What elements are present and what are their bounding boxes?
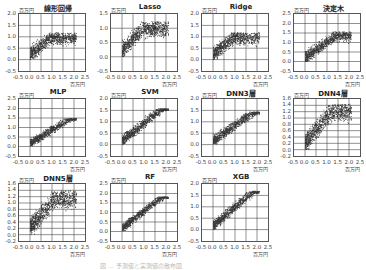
- y-tick-label: 0.2: [0, 225, 16, 231]
- y-tick-label: 0.0: [275, 147, 291, 153]
- y-axis-unit: 百万円: [111, 91, 126, 98]
- y-tick-label: 1.0: [0, 199, 16, 205]
- y-axis-unit: 百万円: [202, 176, 217, 183]
- panel-title: Lasso: [122, 3, 178, 11]
- panel-title: RF: [122, 173, 178, 181]
- panel-title: Ridge: [213, 3, 269, 11]
- panel-title: 線形回帰: [30, 3, 86, 13]
- x-axis-unit: 百万円: [70, 250, 85, 257]
- y-tick-label: 0.5: [0, 134, 16, 140]
- y-tick-label: 1.0: [275, 114, 291, 120]
- scatter-panel: MLP百万円百万円2.52.01.51.00.50.0-0.5-0.50.00.…: [0, 85, 92, 170]
- y-tick-label: 2.0: [183, 95, 199, 101]
- y-tick-label: 1.5: [92, 10, 108, 16]
- plot-area: [201, 13, 269, 72]
- scatter-panel: DNN3層百万円百万円2.01.51.00.50.0-0.5-0.50.00.5…: [183, 85, 275, 170]
- y-tick-label: 0.5: [275, 49, 291, 55]
- plot-area: [18, 183, 86, 242]
- x-tick-label: 2.5: [170, 159, 184, 165]
- scatter-panel: XGB百万円百万円2.01.51.00.50.0-0.5-0.50.00.51.…: [183, 170, 275, 255]
- scatter-panel: DNN5層百万円百万円1.61.41.21.00.80.60.40.20.0-0…: [0, 170, 92, 255]
- y-tick-label: 0.2: [275, 140, 291, 146]
- y-tick-label: 0.4: [0, 219, 16, 225]
- y-tick-label: 0.0: [92, 141, 108, 147]
- y-tick-label: 2.5: [92, 180, 108, 186]
- y-tick-label: 0.4: [275, 134, 291, 140]
- y-tick-label: 1.2: [0, 193, 16, 199]
- panel-title: MLP: [30, 88, 86, 96]
- y-tick-label: 1.4: [0, 186, 16, 192]
- y-tick-label: 1.4: [275, 101, 291, 107]
- panel-title: 決定木: [305, 3, 361, 13]
- y-axis-unit: 百万円: [19, 176, 34, 183]
- y-tick-label: 1.6: [0, 180, 16, 186]
- y-tick-label: 0.0: [275, 58, 291, 64]
- y-tick-label: 2.5: [0, 95, 16, 101]
- plot-area: [201, 98, 269, 157]
- y-tick-label: 0.6: [0, 212, 16, 218]
- panel-title: DNN3層: [213, 88, 269, 98]
- y-tick-label: 1.6: [275, 95, 291, 101]
- y-tick-label: 0.5: [92, 39, 108, 45]
- x-tick-label: 2.5: [170, 74, 184, 80]
- x-tick-label: 2.5: [261, 159, 275, 165]
- y-tick-label: 1.0: [183, 33, 199, 39]
- y-tick-label: 0.0: [183, 226, 199, 232]
- y-tick-label: 1.0: [183, 118, 199, 124]
- x-tick-label: 2.5: [353, 74, 366, 80]
- y-tick-label: 0.5: [92, 219, 108, 225]
- y-tick-label: 0.0: [0, 143, 16, 149]
- y-tick-label: 2.0: [275, 20, 291, 26]
- y-tick-label: 0.8: [275, 121, 291, 127]
- y-tick-label: 2.0: [0, 10, 16, 16]
- plot-area: [110, 13, 178, 72]
- y-tick-label: 1.5: [92, 199, 108, 205]
- y-tick-label: 1.0: [92, 25, 108, 31]
- y-axis-unit: 百万円: [202, 6, 217, 13]
- scatter-panel: SVM百万円百万円2.01.51.00.50.0-0.5-0.50.00.51.…: [92, 85, 184, 170]
- x-axis-unit: 百万円: [162, 250, 177, 257]
- panel-title: DNN5層: [30, 173, 86, 183]
- panel-title: XGB: [213, 173, 269, 181]
- y-tick-label: 0.5: [92, 130, 108, 136]
- figure-caption: 図 … 予測値と実測値の散布図: [100, 261, 182, 270]
- x-axis-unit: 百万円: [345, 165, 360, 172]
- y-tick-label: 1.0: [92, 118, 108, 124]
- scatter-panel: Lasso百万円百万円1.51.00.50.0-0.5-0.50.00.51.0…: [92, 0, 184, 85]
- plot-area: [293, 13, 361, 72]
- y-tick-label: 1.5: [183, 107, 199, 113]
- y-tick-label: 0.0: [0, 56, 16, 62]
- y-tick-label: 0.5: [183, 215, 199, 221]
- y-tick-label: 0.5: [0, 45, 16, 51]
- y-tick-label: 1.5: [275, 29, 291, 35]
- y-axis-unit: 百万円: [294, 91, 309, 98]
- y-tick-label: 0.5: [183, 130, 199, 136]
- y-axis-unit: 百万円: [111, 6, 126, 13]
- plot-area: [18, 98, 86, 157]
- y-tick-label: 0.0: [0, 232, 16, 238]
- y-tick-label: 2.0: [92, 95, 108, 101]
- y-tick-label: 1.0: [183, 203, 199, 209]
- y-axis-unit: 百万円: [294, 6, 309, 13]
- y-tick-label: 0.8: [0, 206, 16, 212]
- y-axis-unit: 百万円: [111, 176, 126, 183]
- scatter-panel: Ridge百万円百万円2.01.51.00.50.0-0.5-0.50.00.5…: [183, 0, 275, 85]
- y-tick-label: 2.5: [275, 10, 291, 16]
- y-tick-label: 1.5: [92, 107, 108, 113]
- plot-area: [293, 98, 361, 157]
- y-tick-label: 0.0: [92, 228, 108, 234]
- y-tick-label: 1.0: [0, 33, 16, 39]
- x-tick-label: 2.5: [170, 244, 184, 250]
- y-tick-label: 1.5: [0, 114, 16, 120]
- plot-area: [110, 183, 178, 242]
- x-tick-label: 2.5: [353, 159, 366, 165]
- y-tick-label: 1.0: [92, 209, 108, 215]
- y-tick-label: 0.6: [275, 127, 291, 133]
- y-tick-label: 1.0: [275, 39, 291, 45]
- scatter-panel: DNN4層百万円百万円1.61.41.21.00.80.60.40.20.0-0…: [275, 85, 366, 170]
- y-axis-unit: 百万円: [19, 91, 34, 98]
- y-axis-unit: 百万円: [19, 6, 34, 13]
- y-tick-label: 2.0: [183, 10, 199, 16]
- y-tick-label: 2.0: [0, 105, 16, 111]
- x-tick-label: 2.5: [78, 244, 92, 250]
